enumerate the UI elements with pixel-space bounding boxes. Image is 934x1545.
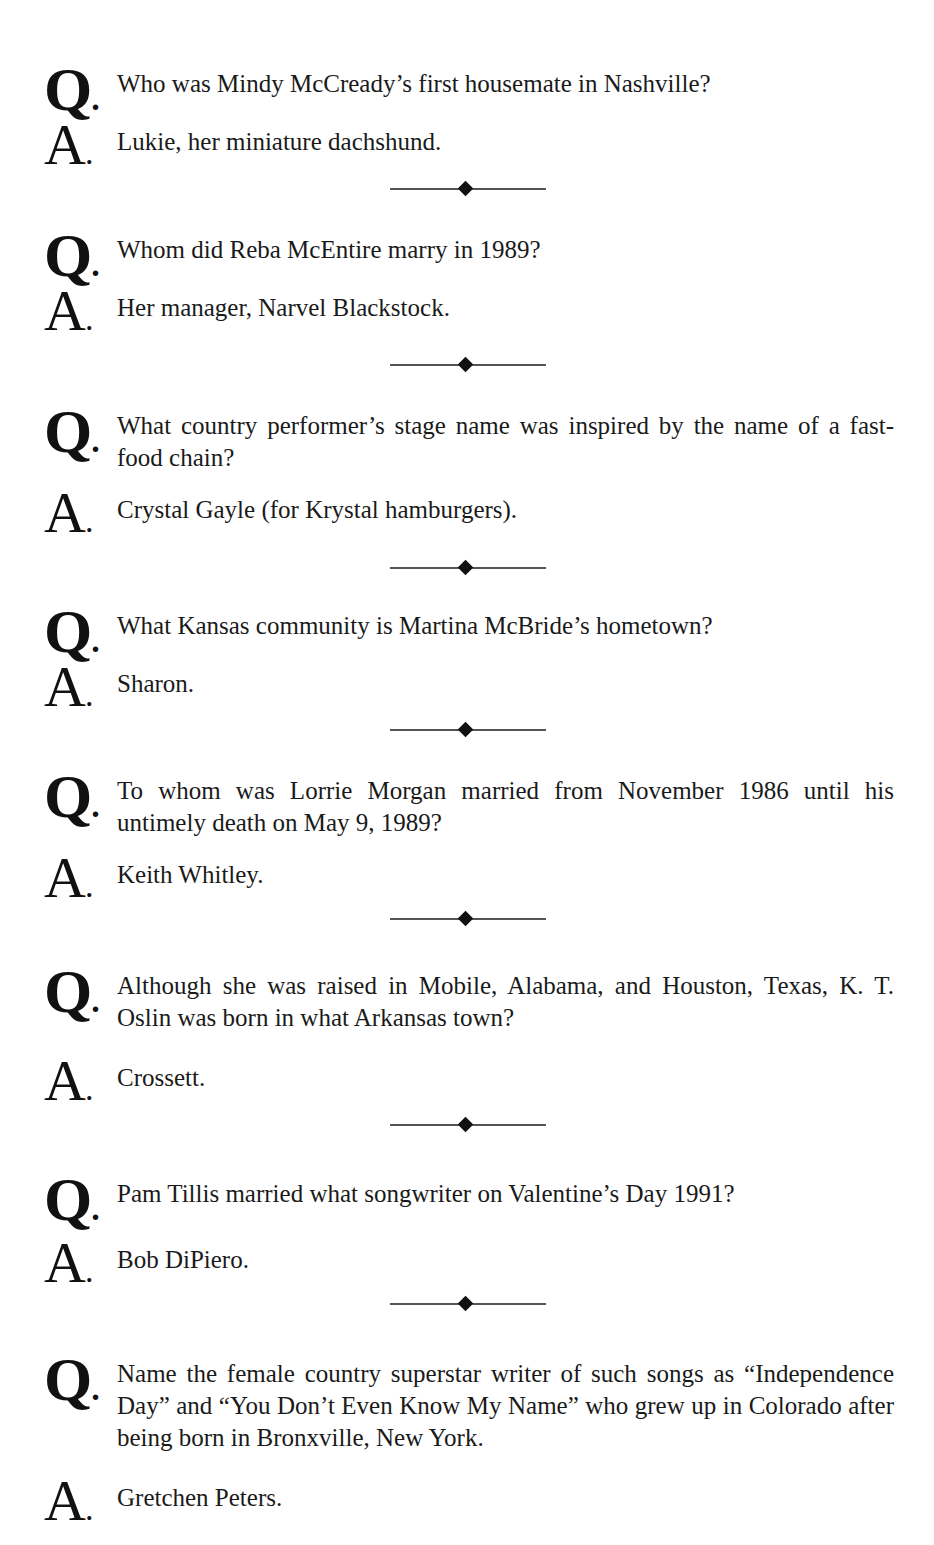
qa-item: Q. What country performer’s stage name w…: [44, 404, 894, 526]
answer-row: A. Crossett.: [44, 1056, 894, 1094]
diamond-icon: [458, 722, 474, 738]
qa-item: Q. Whom did Reba McEntire marry in 1989?…: [44, 228, 894, 324]
answer-marker: A.: [44, 1234, 91, 1292]
answer-text: Gretchen Peters.: [117, 1476, 894, 1514]
trivia-page: Q. Who was Mindy McCready’s first housem…: [0, 0, 934, 1545]
answer-text: Crystal Gayle (for Krystal hamburgers).: [117, 488, 894, 526]
diamond-icon: [458, 1296, 474, 1312]
answer-row: A. Gretchen Peters.: [44, 1476, 894, 1514]
question-text: Pam Tillis married what songwriter on Va…: [117, 1172, 894, 1210]
answer-marker: A.: [44, 282, 91, 340]
answer-row: A. Crystal Gayle (for Krystal hamburgers…: [44, 488, 894, 526]
question-text: Who was Mindy McCready’s first housemate…: [117, 62, 894, 100]
section-divider: [390, 561, 546, 575]
diamond-icon: [458, 911, 474, 927]
question-text: Although she was raised in Mobile, Alaba…: [117, 964, 894, 1034]
answer-marker: A.: [44, 1472, 91, 1530]
diamond-icon: [458, 1117, 474, 1133]
question-marker: Q.: [44, 765, 98, 827]
answer-row: A. Sharon.: [44, 662, 894, 700]
answer-marker: A.: [44, 116, 91, 174]
answer-text: Crossett.: [117, 1056, 894, 1094]
question-marker: Q.: [44, 1348, 98, 1410]
question-marker: Q.: [44, 960, 98, 1022]
answer-row: A. Keith Whitley.: [44, 853, 894, 891]
question-row: Q. To whom was Lorrie Morgan married fro…: [44, 769, 894, 839]
answer-marker: A.: [44, 658, 91, 716]
question-marker: Q.: [44, 58, 98, 120]
answer-row: A. Lukie, her miniature dachshund.: [44, 120, 894, 158]
section-divider: [390, 358, 546, 372]
question-text: Name the female country superstar writer…: [117, 1352, 894, 1454]
qa-item: Q. Pam Tillis married what songwriter on…: [44, 1172, 894, 1276]
diamond-icon: [458, 560, 474, 576]
question-row: Q. What country performer’s stage name w…: [44, 404, 894, 474]
answer-marker: A.: [44, 484, 91, 542]
qa-item: Q. What Kansas community is Martina McBr…: [44, 604, 894, 700]
answer-text: Bob DiPiero.: [117, 1238, 894, 1276]
question-text: What country performer’s stage name was …: [117, 404, 894, 474]
question-text: Whom did Reba McEntire marry in 1989?: [117, 228, 894, 266]
question-row: Q. Although she was raised in Mobile, Al…: [44, 964, 894, 1034]
answer-marker: A.: [44, 1052, 91, 1110]
question-row: Q. What Kansas community is Martina McBr…: [44, 604, 894, 656]
question-row: Q. Name the female country superstar wri…: [44, 1352, 894, 1454]
answer-text: Her manager, Narvel Blackstock.: [117, 286, 894, 324]
qa-item: Q. To whom was Lorrie Morgan married fro…: [44, 769, 894, 891]
question-row: Q. Who was Mindy McCready’s first housem…: [44, 62, 894, 114]
qa-item: Q. Who was Mindy McCready’s first housem…: [44, 62, 894, 158]
section-divider: [390, 1118, 546, 1132]
question-row: Q. Whom did Reba McEntire marry in 1989?: [44, 228, 894, 280]
question-marker: Q.: [44, 224, 98, 286]
answer-text: Lukie, her miniature dachshund.: [117, 120, 894, 158]
answer-row: A. Bob DiPiero.: [44, 1238, 894, 1276]
question-text: To whom was Lorrie Morgan married from N…: [117, 769, 894, 839]
qa-item: Q. Name the female country superstar wri…: [44, 1352, 894, 1514]
answer-row: A. Her manager, Narvel Blackstock.: [44, 286, 894, 324]
section-divider: [390, 912, 546, 926]
qa-item: Q. Although she was raised in Mobile, Al…: [44, 964, 894, 1094]
section-divider: [390, 1297, 546, 1311]
question-marker: Q.: [44, 400, 98, 462]
answer-text: Keith Whitley.: [117, 853, 894, 891]
question-marker: Q.: [44, 600, 98, 662]
answer-marker: A.: [44, 849, 91, 907]
question-marker: Q.: [44, 1168, 98, 1230]
question-row: Q. Pam Tillis married what songwriter on…: [44, 1172, 894, 1228]
diamond-icon: [458, 357, 474, 373]
section-divider: [390, 182, 546, 196]
diamond-icon: [458, 181, 474, 197]
question-text: What Kansas community is Martina McBride…: [117, 604, 894, 642]
answer-text: Sharon.: [117, 662, 894, 700]
section-divider: [390, 723, 546, 737]
